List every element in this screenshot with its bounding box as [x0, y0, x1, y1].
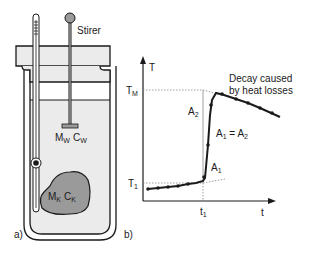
stirrer-knob	[65, 13, 75, 23]
x-axis-arrow-icon	[268, 198, 276, 204]
y-axis-label: T	[149, 62, 155, 73]
x-axis-label: t	[261, 207, 264, 218]
panel-b-label: b)	[124, 229, 133, 240]
thermometer	[31, 14, 41, 212]
temperature-chart: T t TM T1 t1 A2 A1 A1 = A2 Decay caused …	[124, 56, 293, 240]
calorimeter: Stirer MWCW MKCK a)	[14, 13, 116, 240]
y-axis-arrow-icon	[140, 56, 146, 64]
a1-label: A1	[211, 162, 222, 174]
panel-a-label: a)	[14, 229, 23, 240]
decay-extrapolation	[203, 90, 214, 93]
tm-label: TM	[126, 85, 138, 97]
stirer-label: Stirer	[77, 25, 102, 36]
equality-label: A1 = A2	[216, 128, 248, 140]
data-points	[146, 92, 274, 191]
baseline-extrapolation	[203, 179, 225, 183]
decay-note-line1: Decay caused	[229, 73, 292, 84]
lid	[16, 46, 110, 66]
calorimeter-figure: Stirer MWCW MKCK a) T t	[0, 0, 312, 255]
a2-label: A2	[188, 106, 199, 118]
t1-x-label: t1	[200, 206, 207, 218]
stirrer-paddle	[62, 124, 78, 128]
t1-label: T1	[128, 178, 138, 190]
decay-note-line2: by heat losses	[229, 85, 293, 96]
